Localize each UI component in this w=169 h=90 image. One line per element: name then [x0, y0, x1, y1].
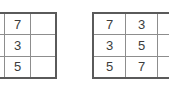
grid-cell [31, 35, 55, 55]
table-row: 3 7 [0, 14, 55, 35]
grid-cell: 7 [126, 57, 158, 77]
table-row: 7 3 5 [94, 14, 169, 35]
table-row: 5 7 3 [94, 57, 169, 77]
left-number-grid: 3 7 5 3 7 5 [0, 12, 57, 79]
grid-cell [31, 57, 55, 77]
grid-cell: 5 [5, 57, 30, 77]
grid-cell: 7 [5, 14, 30, 34]
grid-cell: 7 [94, 14, 126, 34]
table-row: 7 5 [0, 57, 55, 77]
grid-cell: 7 [158, 35, 169, 55]
table-row: 3 5 7 [94, 35, 169, 56]
grid-cell: 3 [5, 35, 30, 55]
grid-cell: 3 [126, 14, 158, 34]
table-row: 5 3 [0, 35, 55, 56]
grid-cell: 3 [94, 35, 126, 55]
number-grid-figure: 3 7 5 3 7 5 7 3 5 3 5 7 5 7 3 [0, 0, 169, 90]
right-number-grid: 7 3 5 3 5 7 5 7 3 [92, 12, 169, 79]
grid-cell: 5 [126, 35, 158, 55]
grid-cell: 5 [94, 57, 126, 77]
grid-cell: 3 [158, 57, 169, 77]
grid-cell [31, 14, 55, 34]
grid-cell: 5 [158, 14, 169, 34]
